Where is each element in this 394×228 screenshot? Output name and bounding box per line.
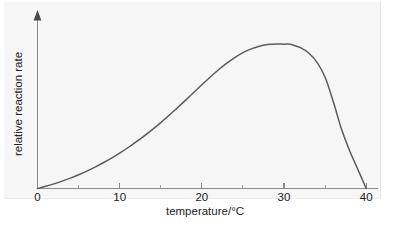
y-axis-title: relative reaction rate	[12, 52, 24, 156]
x-tick-label-0: 0	[34, 191, 40, 203]
x-tick-label-10: 10	[113, 191, 126, 203]
x-tick-label-30: 30	[278, 191, 291, 203]
x-tick-label-40: 40	[360, 191, 373, 203]
x-tick-label-20: 20	[195, 191, 208, 203]
reaction-rate-chart: 0 10 20 30 40 temperature/°C relative re…	[0, 0, 394, 228]
reaction-rate-figure: 0 10 20 30 40 temperature/°C relative re…	[0, 0, 394, 228]
x-axis-title: temperature/°C	[166, 205, 244, 217]
y-axis-arrow-icon	[34, 10, 42, 21]
reaction-rate-curve	[38, 44, 367, 189]
